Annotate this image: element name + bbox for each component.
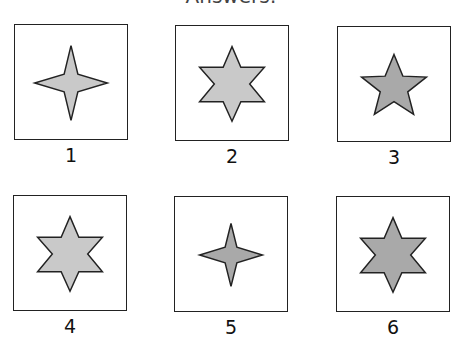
five-point-star-icon [338,27,450,141]
answer-option-6[interactable] [336,196,450,312]
answer-label-3: 3 [337,146,451,168]
answer-label-6: 6 [336,316,450,338]
page-title: Answers: [0,0,462,8]
answer-option-3[interactable] [337,26,451,142]
answer-option-4[interactable] [13,195,127,311]
four-point-star-icon [15,25,127,139]
six-point-star-icon [337,197,449,311]
answer-option-1[interactable] [14,24,128,140]
answer-label-1: 1 [14,144,128,166]
six-point-star-icon [176,26,288,140]
answer-label-2: 2 [175,145,289,167]
answer-option-2[interactable] [175,25,289,141]
answer-label-4: 4 [13,315,127,337]
answer-label-5: 5 [174,316,288,338]
four-point-star-icon [175,197,287,311]
six-point-star-icon [14,196,126,310]
answer-option-5[interactable] [174,196,288,312]
